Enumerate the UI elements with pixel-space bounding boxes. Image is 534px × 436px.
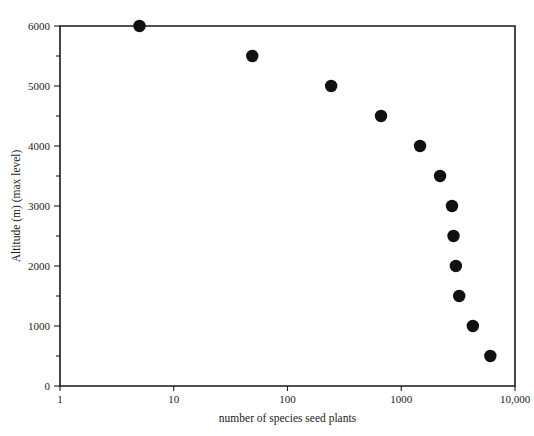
y-tick-label: 1000 [28, 320, 51, 332]
scatter-plot: 0100020003000400050006000 110100100010,0… [0, 0, 534, 436]
y-axis-ticks: 0100020003000400050006000 [28, 20, 60, 392]
y-tick-label: 2000 [28, 260, 51, 272]
data-points-layer [133, 20, 496, 362]
y-tick-label: 0 [45, 380, 51, 392]
x-axis-title: number of species seed plants [219, 412, 357, 425]
chart-figure: 0100020003000400050006000 110100100010,0… [0, 0, 534, 436]
data-point [414, 140, 426, 152]
x-tick-label: 1000 [390, 393, 413, 405]
data-point [484, 350, 496, 362]
data-point [446, 200, 458, 212]
y-tick-label: 5000 [28, 80, 51, 92]
x-tick-label: 10,000 [500, 393, 531, 405]
data-point [453, 290, 465, 302]
data-point [434, 170, 446, 182]
data-point [375, 110, 387, 122]
x-tick-label: 10 [168, 393, 180, 405]
y-tick-label: 3000 [28, 200, 51, 212]
data-point [133, 20, 145, 32]
data-point [450, 260, 462, 272]
x-axis-ticks: 110100100010,000 [57, 386, 530, 405]
y-tick-label: 4000 [28, 140, 51, 152]
y-tick-label: 6000 [28, 20, 51, 32]
y-axis-title: Altitude (m) (max level) [10, 149, 23, 262]
data-point [325, 80, 337, 92]
x-tick-label: 1 [57, 393, 63, 405]
data-point [467, 320, 479, 332]
data-point [447, 230, 459, 242]
data-point [246, 50, 258, 62]
x-tick-label: 100 [279, 393, 296, 405]
